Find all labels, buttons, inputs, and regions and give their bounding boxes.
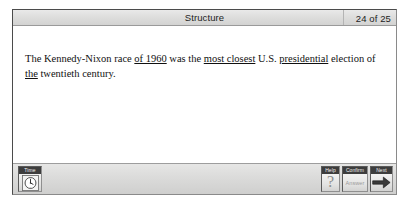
confirm-answer-button[interactable]: Confirm Answer <box>342 166 368 192</box>
time-button-label: Time <box>19 167 41 174</box>
underlined-phrase[interactable]: of 1960 <box>134 53 166 64</box>
title-bar-divider <box>343 10 344 25</box>
question-mark-icon: ? <box>327 174 334 190</box>
underlined-phrase[interactable]: most closest <box>204 53 256 64</box>
right-arrow-icon <box>372 176 391 189</box>
next-button-label: Next <box>371 167 392 174</box>
window-title-bar: Structure 24 of 25 <box>13 10 396 26</box>
confirm-answer-text: Answer <box>346 180 365 186</box>
question-text-run: was the <box>167 53 204 64</box>
question-text-run: election of <box>328 53 375 64</box>
underlined-phrase[interactable]: presidential <box>279 53 328 64</box>
help-button-face: ? <box>322 174 339 191</box>
page-counter: 24 of 25 <box>356 12 391 23</box>
question-text-run: twentieth century. <box>38 68 116 79</box>
time-button-face <box>19 174 41 191</box>
page-title: Structure <box>185 13 224 23</box>
underlined-phrase[interactable]: the <box>25 68 38 79</box>
time-button[interactable]: Time <box>18 166 42 192</box>
bottom-toolbar: Time Help ? C <box>13 163 396 194</box>
question-text-run: The Kennedy-Nixon race <box>25 53 134 64</box>
next-button[interactable]: Next <box>370 166 393 192</box>
test-window: Structure 24 of 25 The Kennedy-Nixon rac… <box>12 9 397 195</box>
confirm-button-label: Confirm <box>343 167 367 174</box>
clock-icon <box>22 175 39 191</box>
question-content-area: The Kennedy-Nixon race of 1960 was the m… <box>13 26 396 163</box>
confirm-button-face: Answer <box>343 174 367 191</box>
next-button-face <box>371 174 392 191</box>
help-button[interactable]: Help ? <box>321 166 340 192</box>
question-text-run: U.S. <box>255 53 279 64</box>
question-text: The Kennedy-Nixon race of 1960 was the m… <box>25 51 380 81</box>
